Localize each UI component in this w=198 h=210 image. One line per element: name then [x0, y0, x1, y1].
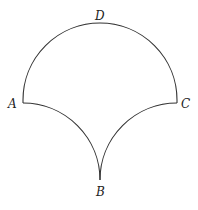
arc-a-b [23, 103, 100, 180]
label-a: A [7, 97, 17, 111]
arc-c-b [100, 103, 177, 180]
label-c: C [181, 97, 190, 111]
geometry-diagram: A B C D [0, 0, 198, 210]
arc-a-d-c [23, 23, 177, 103]
label-d: D [94, 9, 105, 23]
label-b: B [95, 185, 105, 199]
